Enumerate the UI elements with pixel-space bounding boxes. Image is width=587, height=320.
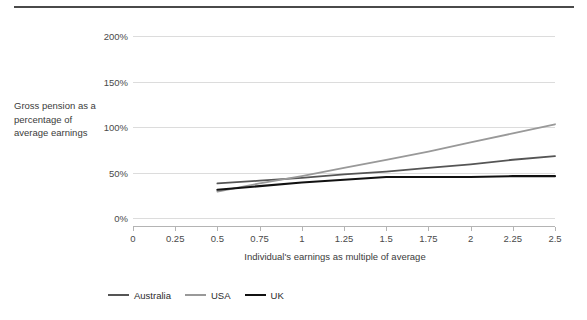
- x-tick-mark: [175, 227, 176, 231]
- x-tick-mark: [428, 227, 429, 231]
- x-tick-label: 2: [451, 233, 491, 244]
- y-tick-label: 150%: [76, 76, 128, 87]
- x-tick-label: 2.5: [535, 233, 575, 244]
- x-tick-label: 1.25: [324, 233, 364, 244]
- y-axis-tick-labels: 0%50%100%150%200%: [70, 36, 128, 218]
- x-tick-mark: [133, 227, 134, 231]
- x-tick-label: 0: [113, 233, 153, 244]
- series-line-usa: [217, 124, 555, 191]
- x-tick-label: 0.5: [197, 233, 237, 244]
- x-tick-mark: [302, 227, 303, 231]
- y-tick-label: 200%: [76, 31, 128, 42]
- x-tick-mark: [471, 227, 472, 231]
- legend-line-icon: [185, 294, 206, 296]
- x-axis-tick-labels: 00.250.50.7511.251.51.7522.252.5: [133, 227, 555, 249]
- x-tick-mark: [260, 227, 261, 231]
- y-tick-label: 100%: [76, 122, 128, 133]
- legend-line-icon: [108, 294, 129, 296]
- x-tick-mark: [344, 227, 345, 231]
- legend-label: USA: [211, 290, 231, 301]
- chart-legend: AustraliaUSAUK: [108, 286, 284, 304]
- x-tick-label: 0.25: [155, 233, 195, 244]
- legend-item-usa[interactable]: USA: [185, 290, 231, 301]
- x-tick-mark: [555, 227, 556, 231]
- plot-area: [133, 36, 555, 218]
- x-tick-mark: [513, 227, 514, 231]
- x-tick-label: 2.25: [493, 233, 533, 244]
- series-line-uk: [217, 176, 555, 190]
- y-tick-label: 50%: [76, 167, 128, 178]
- chart-figure: Gross pension as a percentage of average…: [0, 0, 587, 320]
- legend-line-icon: [245, 294, 266, 296]
- x-tick-label: 0.75: [240, 233, 280, 244]
- legend-label: Australia: [134, 290, 171, 301]
- legend-label: UK: [271, 290, 284, 301]
- series-layer: [133, 36, 555, 218]
- x-axis-title: Individual's earnings as multiple of ave…: [130, 251, 540, 262]
- x-tick-label: 1.5: [366, 233, 406, 244]
- x-tick-mark: [217, 227, 218, 231]
- x-tick-label: 1.75: [408, 233, 448, 244]
- legend-item-australia[interactable]: Australia: [108, 290, 171, 301]
- x-tick-label: 1: [282, 233, 322, 244]
- header-rule: [14, 6, 574, 8]
- legend-item-uk[interactable]: UK: [245, 290, 284, 301]
- gridline: [133, 218, 555, 219]
- x-tick-mark: [386, 227, 387, 231]
- y-tick-label: 0%: [76, 213, 128, 224]
